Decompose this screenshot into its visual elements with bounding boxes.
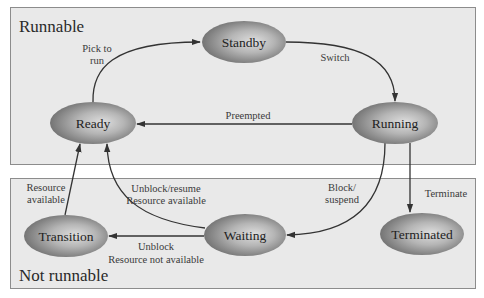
state-running: Running	[352, 102, 438, 144]
thread-state-diagram: Runnable Not runnable Pick to run Switch…	[0, 0, 484, 298]
edge-label-terminate: Terminate	[425, 188, 468, 199]
state-ready: Ready	[50, 102, 136, 144]
state-terminated: Terminated	[380, 213, 464, 255]
edge-label-resource-available-1: Resource	[26, 182, 65, 193]
edge-label-unblock-not-available-1: Unblock	[138, 241, 175, 252]
edge-label-switch: Switch	[320, 52, 350, 63]
edge-label-pick-to-run-2: run	[90, 55, 105, 66]
edge-label-resource-available-2: available	[27, 194, 65, 205]
state-standby: Standby	[202, 21, 286, 63]
not-runnable-region-title: Not runnable	[19, 266, 108, 285]
state-waiting-label: Waiting	[224, 228, 267, 243]
state-transition-label: Transition	[38, 229, 93, 244]
edge-label-preempted: Preempted	[226, 110, 272, 121]
state-terminated-label: Terminated	[391, 227, 453, 242]
edge-label-pick-to-run-1: Pick to	[82, 43, 111, 54]
edge-label-unblock-not-available-2: Resource not available	[108, 254, 204, 265]
edge-label-block-suspend-1: Block/	[328, 182, 356, 193]
edge-label-block-suspend-2: suspend	[325, 194, 360, 205]
state-running-label: Running	[372, 116, 419, 131]
runnable-region-title: Runnable	[19, 17, 84, 36]
state-transition: Transition	[24, 215, 108, 257]
state-ready-label: Ready	[76, 116, 111, 131]
edge-label-unblock-resume-1: Unblock/resume	[131, 183, 201, 194]
state-waiting: Waiting	[204, 214, 286, 256]
edge-label-unblock-resume-2: Resource available	[126, 195, 206, 206]
state-standby-label: Standby	[222, 35, 267, 50]
